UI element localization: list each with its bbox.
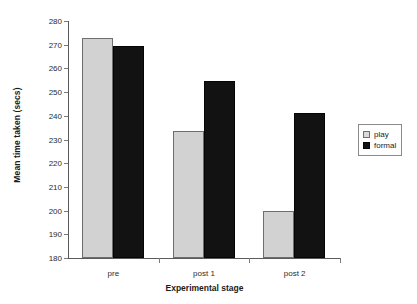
x-axis-label-post-2: post 2: [284, 269, 306, 278]
bar-formal-post-1: [204, 81, 235, 258]
y-axis-tick-label: 230: [49, 135, 62, 144]
legend-item-play: play: [363, 129, 396, 140]
y-axis-tick-label: 180: [49, 254, 62, 263]
bar-play-post-1: [173, 131, 204, 258]
y-axis-tick-mark: [64, 45, 68, 46]
bar-formal-pre: [113, 46, 144, 258]
legend-label-formal: formal: [374, 140, 396, 151]
x-axis-line: [68, 258, 341, 259]
y-axis-tick-mark: [64, 187, 68, 188]
bar-play-pre: [82, 38, 113, 258]
bar-formal-post-2: [294, 113, 325, 258]
y-axis-tick-mark: [64, 211, 68, 212]
y-axis-title-text: Mean time taken (secs): [12, 87, 22, 182]
x-axis-label-pre: pre: [108, 269, 120, 278]
y-axis-tick-mark: [64, 92, 68, 93]
y-axis-tick-label: 190: [49, 230, 62, 239]
x-axis-title: Experimental stage: [68, 283, 341, 293]
bar-chart-figure: Mean time taken (secs) 18019020021022023…: [0, 0, 417, 304]
x-axis-label-post-1: post 1: [193, 269, 215, 278]
legend-label-play: play: [374, 129, 389, 140]
x-axis-tick-mark: [159, 258, 160, 263]
x-axis-tick-mark: [249, 258, 250, 263]
legend-swatch-play-icon: [363, 131, 370, 138]
y-axis-tick-label: 270: [49, 40, 62, 49]
legend-swatch-formal-icon: [363, 142, 370, 149]
bar-play-post-2: [263, 211, 294, 258]
y-axis-title: Mean time taken (secs): [8, 0, 26, 270]
y-axis-tick-mark: [64, 68, 68, 69]
y-axis-tick-mark: [64, 258, 68, 259]
plot-area: 180190200210220230240250260270280 prepos…: [68, 21, 340, 258]
legend-item-formal: formal: [363, 140, 396, 151]
y-axis-tick-label: 260: [49, 64, 62, 73]
y-axis-tick-mark: [64, 21, 68, 22]
y-axis-tick-label: 240: [49, 111, 62, 120]
y-axis-tick-mark: [64, 163, 68, 164]
y-axis-tick-label: 210: [49, 182, 62, 191]
y-axis-tick-mark: [64, 140, 68, 141]
chart-legend: play formal: [358, 124, 402, 156]
y-axis-tick-label: 250: [49, 88, 62, 97]
y-axis-tick-label: 220: [49, 159, 62, 168]
y-axis-tick-label: 280: [49, 17, 62, 26]
y-axis-line: [68, 21, 69, 258]
x-axis-tick-mark: [340, 258, 341, 263]
y-axis-tick-label: 200: [49, 206, 62, 215]
y-axis-tick-mark: [64, 234, 68, 235]
y-axis-tick-mark: [64, 116, 68, 117]
